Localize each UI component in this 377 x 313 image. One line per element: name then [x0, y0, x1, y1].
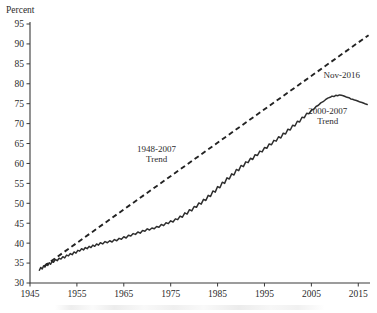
caption-smudge [55, 305, 325, 310]
x-tick-label: 1955 [67, 289, 86, 299]
y-tick-label: 90 [15, 39, 25, 49]
y-tick-label: 50 [15, 199, 25, 209]
y-axis-tick-labels: 3035404550556065707580859095 [15, 19, 25, 288]
y-tick-label: 95 [15, 19, 25, 29]
annotation-nov-2016: Nov-2016 [324, 70, 361, 80]
x-tick-label: 1995 [255, 289, 274, 299]
x-tick-label: 1985 [208, 289, 227, 299]
chart-annotations: 1948-2007TrendNov-20162000-2007Trend [137, 70, 360, 164]
y-tick-label: 85 [15, 59, 25, 69]
x-axis-tick-labels: 19451955196519751985199520052015 [21, 289, 369, 299]
annotation-trend-1948-2007: 1948-2007 [137, 144, 176, 154]
trend-line [44, 35, 369, 266]
y-tick-label: 35 [15, 258, 25, 268]
y-tick-label: 55 [15, 179, 25, 189]
line-chart: 3035404550556065707580859095 19451955196… [0, 0, 377, 313]
y-tick-label: 40 [15, 239, 25, 249]
y-tick-label: 70 [15, 119, 25, 129]
chart-axes [27, 22, 371, 287]
y-tick-label: 65 [15, 139, 25, 149]
y-tick-label: 75 [15, 99, 25, 109]
x-tick-label: 1945 [21, 289, 40, 299]
annotation-trend-2000-2007-line2: Trend [317, 116, 339, 126]
chart-figure: 3035404550556065707580859095 19451955196… [0, 0, 377, 313]
y-tick-label: 80 [15, 79, 25, 89]
x-tick-label: 1975 [161, 289, 180, 299]
x-tick-label: 2015 [349, 289, 368, 299]
x-tick-label: 1965 [114, 289, 133, 299]
y-tick-label: 45 [15, 219, 25, 229]
y-tick-label: 60 [15, 159, 25, 169]
annotation-trend-2000-2007: 2000-2007 [308, 106, 347, 116]
y-tick-label: 30 [15, 278, 25, 288]
annotation-trend-1948-2007-line2: Trend [146, 154, 168, 164]
x-tick-label: 2005 [302, 289, 321, 299]
y-axis-title: Percent [6, 5, 35, 15]
chart-series [39, 35, 368, 270]
